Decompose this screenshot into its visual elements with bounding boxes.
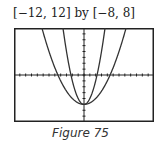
graph-plot [14, 28, 154, 122]
figure-caption: Figure 75 [0, 126, 161, 140]
window-title: [−12, 12] by [−8, 8] [13, 6, 135, 20]
